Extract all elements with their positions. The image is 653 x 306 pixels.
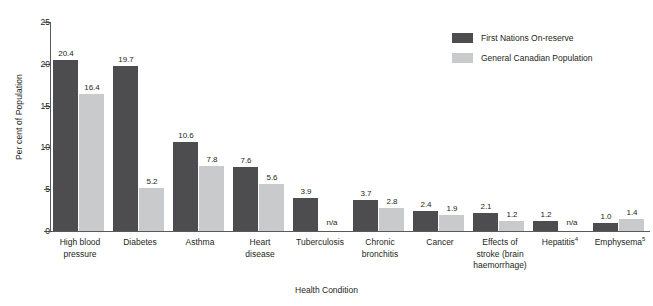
legend-label: First Nations On-reserve <box>481 33 574 43</box>
bar-group: 1.01.4 <box>590 22 650 231</box>
bar-value-label: 5.6 <box>252 173 292 182</box>
bar <box>113 66 138 231</box>
bar <box>379 208 404 231</box>
legend-item-general-population: General Canadian Population <box>452 50 593 66</box>
bar <box>499 221 524 231</box>
bar-group: 20.416.4 <box>50 22 110 231</box>
bar-value-label: 7.6 <box>226 156 266 165</box>
y-axis-tick: 5 <box>0 189 50 190</box>
y-axis-tick: 25 <box>0 22 50 23</box>
y-axis-title: Per cent of Population <box>14 27 24 207</box>
bar <box>413 211 438 231</box>
y-axis-tick: 20 <box>0 64 50 65</box>
bar <box>199 166 224 231</box>
x-axis-title: Health Condition <box>0 285 653 295</box>
x-axis-category-label: Emphysema5 <box>577 237 653 249</box>
legend-swatch-icon <box>452 53 473 63</box>
x-axis-line <box>50 231 650 232</box>
bar <box>619 219 644 231</box>
bar-group: 7.65.6 <box>230 22 290 231</box>
bar <box>593 223 618 231</box>
bar-group: 19.75.2 <box>110 22 170 231</box>
y-axis-tick-label: 15 <box>26 100 50 110</box>
bar <box>439 215 464 231</box>
bar-group: 3.9n/a <box>290 22 350 231</box>
y-axis-tick-label: 25 <box>26 17 50 27</box>
bar-value-label: 1.4 <box>612 208 652 217</box>
y-axis-tick-label: 10 <box>26 142 50 152</box>
bar-value-label: 20.4 <box>46 49 86 58</box>
y-axis-tick: 15 <box>0 106 50 107</box>
bar-group: 10.67.8 <box>170 22 230 231</box>
chart-legend: First Nations On-reserve General Canadia… <box>452 30 593 70</box>
legend-swatch-icon <box>452 33 473 43</box>
y-axis-tick: 0 <box>0 231 50 232</box>
y-axis-tick-label: 0 <box>26 226 50 236</box>
legend-label: General Canadian Population <box>481 53 593 63</box>
legend-item-first-nations: First Nations On-reserve <box>452 30 593 46</box>
bar-value-label: 16.4 <box>72 83 112 92</box>
bar <box>139 188 164 231</box>
bar <box>259 184 284 231</box>
y-axis-tick-label: 20 <box>26 58 50 68</box>
bar <box>79 94 104 231</box>
bar-value-label: 19.7 <box>106 55 146 64</box>
y-axis-tick: 10 <box>0 147 50 148</box>
bar-group: 3.72.8 <box>350 22 410 231</box>
bar-na-label: n/a <box>312 218 352 227</box>
bar-value-label: 3.9 <box>286 187 326 196</box>
y-axis-tick-label: 5 <box>26 184 50 194</box>
bar-value-label: 10.6 <box>166 131 206 140</box>
bar-chart: Per cent of Population 0510152025 Health… <box>0 0 653 306</box>
bar-value-label: 5.2 <box>132 177 172 186</box>
